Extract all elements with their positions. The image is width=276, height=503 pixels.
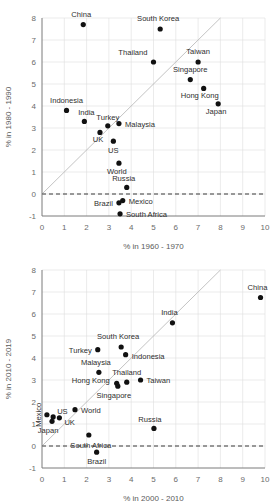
data-point-group: South Korea [97, 332, 140, 350]
data-point-marker[interactable] [44, 412, 49, 417]
data-point-marker[interactable] [105, 123, 110, 128]
data-point-label: South Africa [126, 210, 168, 219]
data-point-marker[interactable] [116, 161, 121, 166]
data-point-label: Indonesia [132, 352, 166, 361]
data-point-marker[interactable] [86, 432, 91, 437]
y-tick-label: 8 [32, 266, 37, 275]
data-point-marker[interactable] [216, 101, 221, 106]
x-tick-label: 0 [40, 475, 45, 484]
two-panel-scatter-figure: 012345678910-1012345678% in 1960 - 1970%… [0, 0, 276, 503]
data-point-label: UK [64, 418, 75, 427]
data-point-marker[interactable] [94, 450, 99, 455]
data-point-marker[interactable] [124, 380, 129, 385]
data-point-marker[interactable] [115, 384, 120, 389]
data-point-group: Turkey [69, 346, 101, 355]
data-point-label: South Korea [137, 14, 180, 23]
data-point-marker[interactable] [123, 352, 128, 357]
data-point-marker[interactable] [82, 119, 87, 124]
data-point-marker[interactable] [96, 370, 101, 375]
x-tick-label: 0 [40, 223, 45, 232]
data-point-label: Hong Kong [181, 91, 219, 100]
data-point-group: Singapore [173, 65, 208, 83]
data-point-label: Singapore [97, 391, 132, 400]
data-point-marker[interactable] [116, 121, 121, 126]
data-point-group: India [78, 108, 95, 124]
data-point-group: Brazil [87, 450, 106, 467]
data-point-label: US [57, 407, 68, 416]
data-point-marker[interactable] [95, 347, 100, 352]
data-point-marker[interactable] [117, 211, 122, 216]
y-tick-label: 8 [32, 14, 37, 23]
x-tick-label: 4 [129, 475, 134, 484]
data-point-label: Turkey [96, 113, 119, 122]
data-point-label: Taiwan [147, 376, 171, 385]
data-point-group: China [71, 10, 92, 28]
data-point-group: Taiwan [138, 376, 170, 385]
x-tick-label: 1 [62, 223, 67, 232]
data-point-marker[interactable] [120, 198, 125, 203]
data-point-marker[interactable] [138, 377, 143, 382]
data-point-marker[interactable] [124, 185, 129, 190]
data-point-marker[interactable] [57, 415, 62, 420]
y-tick-label: 4 [32, 354, 37, 363]
x-tick-label: 10 [261, 223, 270, 232]
data-point-group: Mexico [34, 403, 50, 427]
data-point-marker[interactable] [151, 59, 156, 64]
data-point-label: Turkey [69, 346, 92, 355]
data-point-group: Brazil [94, 199, 122, 208]
data-point-label: US [108, 146, 119, 155]
data-point-marker[interactable] [258, 295, 263, 300]
data-point-marker[interactable] [72, 407, 77, 412]
y-tick-label: 7 [32, 36, 37, 45]
data-point-group: South Africa [70, 432, 112, 450]
data-point-group: Russia [138, 415, 162, 431]
y-tick-label: 5 [32, 332, 37, 341]
data-point-group: UK [93, 130, 104, 145]
data-point-marker[interactable] [158, 26, 163, 31]
y-tick-label: 7 [32, 288, 37, 297]
y-tick-label: 0 [32, 190, 37, 199]
data-point-marker[interactable] [51, 414, 56, 419]
x-tick-label: 8 [218, 475, 223, 484]
x-tick-label: 5 [151, 223, 156, 232]
data-point-label: Thailand [112, 368, 141, 377]
data-point-label: Malaysia [125, 120, 156, 129]
x-tick-label: 6 [174, 223, 179, 232]
data-point-marker[interactable] [64, 108, 69, 113]
data-point-group: South Korea [137, 14, 180, 32]
data-point-group: Japan [206, 101, 227, 116]
x-tick-label: 9 [240, 475, 245, 484]
plot-area-top: 012345678910-1012345678% in 1960 - 1970%… [0, 0, 276, 251]
data-point-label: Brazil [87, 457, 106, 466]
data-point-label: India [78, 108, 95, 117]
data-point-label: Japan [206, 107, 227, 116]
data-point-marker[interactable] [111, 139, 116, 144]
data-point-group: Mexico [120, 197, 153, 206]
data-point-label: Russia [138, 415, 162, 424]
y-tick-label: 6 [32, 310, 37, 319]
x-tick-label: 9 [240, 223, 245, 232]
data-point-group: Malaysia [116, 120, 155, 129]
data-point-label: China [71, 10, 92, 19]
data-point-marker[interactable] [188, 77, 193, 82]
data-point-marker[interactable] [97, 130, 102, 135]
y-tick-label: 0 [32, 442, 37, 451]
data-point-group: US [108, 139, 119, 156]
y-tick-label: 3 [32, 376, 37, 385]
data-point-label: Taiwan [186, 47, 210, 56]
data-point-label: China [248, 283, 269, 292]
x-tick-label: 8 [218, 223, 223, 232]
x-axis-title: % in 1960 - 1970 [123, 242, 184, 251]
y-tick-label: 4 [32, 102, 37, 111]
data-point-marker[interactable] [81, 22, 86, 27]
data-point-label: Brazil [94, 199, 113, 208]
data-point-marker[interactable] [151, 426, 156, 431]
data-point-marker[interactable] [49, 419, 54, 424]
data-point-group: Russia [112, 174, 136, 190]
y-tick-label: 5 [32, 80, 37, 89]
data-point-marker[interactable] [170, 320, 175, 325]
x-tick-label: 10 [261, 475, 270, 484]
data-point-marker[interactable] [119, 344, 124, 349]
data-point-group: Malaysia [81, 358, 112, 375]
data-point-marker[interactable] [201, 86, 206, 91]
